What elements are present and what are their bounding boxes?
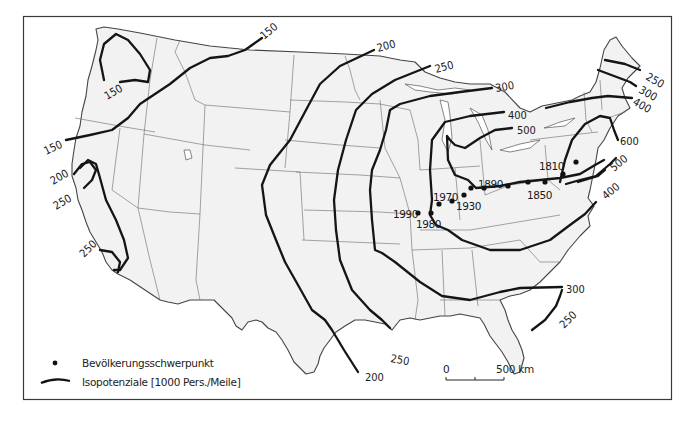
legend-dot-icon: [53, 361, 58, 366]
scale-bar-end: 500 km: [496, 363, 534, 375]
population-center-dot: [505, 183, 510, 188]
population-center-label: 1980: [416, 218, 441, 230]
population-center-dot: [560, 171, 565, 176]
isoline-label-400: 400: [508, 109, 527, 122]
isoline-label-200: 200: [365, 371, 384, 384]
population-center-dot: [573, 159, 578, 164]
population-center-label: 1810: [539, 160, 564, 172]
isoline-label-300: 300: [566, 283, 585, 296]
legend-isoline-label: Isopotenziale [1000 Pers./Meile]: [82, 376, 241, 388]
isoline-label-600: 600: [620, 135, 639, 148]
population-center-label: 1850: [527, 189, 552, 201]
legend-population-center-label: Bevölkerungsschwerpunkt: [82, 357, 214, 369]
population-center-dot: [428, 210, 433, 215]
population-center-label: 1970: [433, 191, 458, 203]
population-center-dot: [525, 179, 530, 184]
population-potential-map: 150 150 150 200 250 250 200 250 300 400 …: [0, 0, 694, 430]
population-center-dot: [461, 192, 466, 197]
population-center-label: 1930: [456, 200, 481, 212]
population-center-label: 1990: [393, 208, 418, 220]
scale-bar-start: 0: [443, 363, 449, 375]
population-center-label: 1890: [478, 178, 503, 190]
population-center-dot: [542, 179, 547, 184]
isoline-label-500: 500: [517, 124, 536, 137]
population-center-dot: [468, 185, 473, 190]
